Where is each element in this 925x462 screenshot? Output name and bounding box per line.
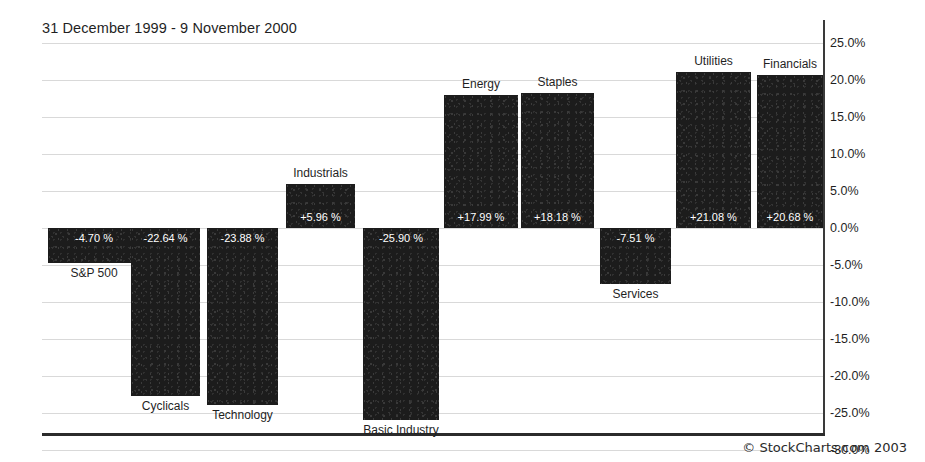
y-axis-tick-label: 25.0%: [830, 36, 865, 50]
copyright-notice: © StockCharts.com 2003: [742, 440, 907, 455]
y-axis-tick-label: -20.0%: [830, 369, 870, 383]
bar[interactable]: +18.18 %: [521, 93, 594, 228]
bar-value-label: -4.70 %: [48, 232, 140, 244]
bar-category-label: Staples: [537, 75, 577, 89]
y-axis-tick-label: -25.0%: [830, 406, 870, 420]
bar-category-label: Financials: [763, 57, 817, 71]
y-axis-tick-label: 10.0%: [830, 147, 865, 161]
bar-value-label: -23.88 %: [207, 232, 278, 244]
bar[interactable]: -25.90 %: [363, 228, 439, 420]
chart-title: 31 December 1999 - 9 November 2000: [42, 20, 297, 36]
y-axis-tick-label: -15.0%: [830, 332, 870, 346]
bar-category-label: Energy: [462, 77, 500, 91]
bar-category-label: Services: [612, 287, 658, 301]
y-axis-tick-label: 0.0%: [830, 221, 859, 235]
bar-category-label: Technology: [212, 408, 273, 422]
y-axis-tick-label: 15.0%: [830, 110, 865, 124]
bar-category-label: Basic Industry: [363, 423, 438, 437]
gridline: [42, 450, 823, 451]
y-axis-tick-label: 20.0%: [830, 73, 865, 87]
bar[interactable]: +5.96 %: [286, 184, 355, 228]
bar-value-label: +20.68 %: [757, 211, 823, 223]
y-axis-tick-label: 5.0%: [830, 184, 859, 198]
bar-category-label: Industrials: [293, 166, 348, 180]
bar-category-label: Utilities: [694, 54, 733, 68]
bar-value-label: -22.64 %: [131, 232, 200, 244]
bar[interactable]: +21.08 %: [676, 72, 751, 228]
bar-category-label: S&P 500: [70, 266, 117, 280]
bar[interactable]: -4.70 %: [48, 228, 140, 263]
bar[interactable]: -7.51 %: [600, 228, 671, 284]
y-axis-tick-label: -10.0%: [830, 295, 870, 309]
bar-value-label: -7.51 %: [600, 232, 671, 244]
bar-value-label: +18.18 %: [521, 211, 594, 223]
bar[interactable]: +17.99 %: [444, 95, 518, 228]
y-axis-tick-label: -5.0%: [830, 258, 863, 272]
y-axis-spine: [823, 20, 825, 434]
bar-value-label: +5.96 %: [286, 211, 355, 223]
bar[interactable]: -23.88 %: [207, 228, 278, 405]
bar-category-label: Cyclicals: [142, 399, 189, 413]
bar-value-label: -25.90 %: [363, 232, 439, 244]
chart-page: 31 December 1999 - 9 November 2000 25.0%…: [0, 0, 925, 462]
gridline: [42, 43, 823, 44]
bar[interactable]: -22.64 %: [131, 228, 200, 396]
bar[interactable]: +20.68 %: [757, 75, 823, 228]
bar-value-label: +21.08 %: [676, 211, 751, 223]
bar-value-label: +17.99 %: [444, 211, 518, 223]
